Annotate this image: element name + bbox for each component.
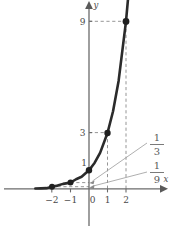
y-tick-label-3: 3 — [80, 128, 86, 138]
exponential-graph-figure: −2 −1 0 1 2 1 3 9 y x 1 3 1 9 — [0, 0, 174, 230]
y-axis-arrowhead — [85, 1, 93, 9]
axes — [4, 1, 168, 226]
leader-line-one-ninth — [93, 172, 148, 186]
x-tick-label-neg1: −1 — [64, 195, 77, 205]
graph-canvas: −2 −1 0 1 2 1 3 9 y x 1 3 1 9 — [0, 0, 174, 230]
y-axis-label: y — [93, 0, 99, 10]
x-axis-label: x — [164, 174, 169, 184]
y-tick-label-1: 1 — [81, 158, 87, 168]
point-neg2 — [49, 184, 55, 190]
point-neg1 — [68, 180, 74, 186]
x-tick-label-0: 0 — [90, 195, 96, 205]
fraction-one-ninth-denominator: 9 — [154, 174, 160, 185]
x-axis-arrowhead — [160, 185, 168, 193]
point-1 — [104, 130, 110, 136]
fraction-one-third-denominator: 3 — [154, 146, 160, 157]
leader-arrow-one-third — [89, 180, 94, 184]
y-tick-label-9: 9 — [80, 17, 86, 27]
x-tick-label-1: 1 — [105, 195, 111, 205]
fraction-one-third-numerator: 1 — [154, 132, 160, 143]
point-2 — [123, 18, 130, 25]
x-tick-label-neg2: −2 — [45, 195, 58, 205]
fraction-one-ninth: 1 9 — [150, 160, 164, 185]
fraction-one-third: 1 3 — [150, 132, 164, 157]
x-tick-label-2: 2 — [123, 195, 129, 205]
annotation-leaders — [89, 143, 147, 189]
fraction-one-ninth-numerator: 1 — [154, 160, 160, 171]
